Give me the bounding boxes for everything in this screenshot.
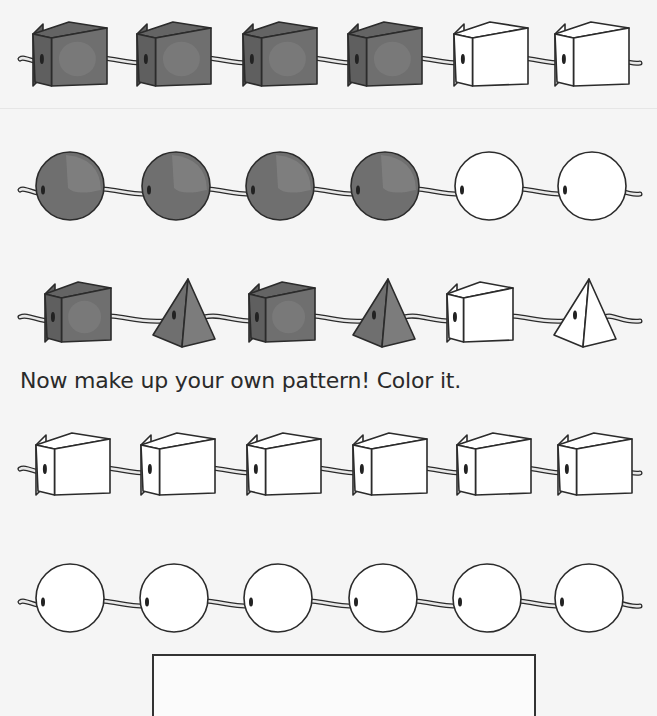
bead-cube-empty[interactable] — [454, 22, 528, 86]
bead-string-cubes-row — [0, 0, 657, 110]
bead-cube-filled — [33, 22, 107, 86]
bead-sphere-empty[interactable] — [555, 564, 623, 632]
bead-string-cube-pyramid-row — [0, 270, 657, 370]
bead-row-1 — [0, 0, 657, 110]
bead-cube-filled — [45, 282, 111, 342]
bead-pyramid-filled — [153, 279, 215, 347]
bead-sphere-filled — [246, 152, 314, 220]
bead-row-3 — [0, 270, 657, 370]
bead-cube-filled — [348, 22, 422, 86]
bead-sphere-empty[interactable] — [349, 564, 417, 632]
bead-cube-empty[interactable] — [447, 282, 513, 342]
bead-cube-empty[interactable] — [558, 433, 632, 495]
bead-string-spheres-row — [0, 120, 657, 250]
bead-cube-empty[interactable] — [141, 433, 215, 495]
bead-sphere-filled — [142, 152, 210, 220]
drawing-box[interactable] — [152, 654, 536, 716]
blank-spheres-row[interactable] — [0, 550, 657, 640]
bead-sphere-empty[interactable] — [558, 152, 626, 220]
bead-row-5[interactable] — [0, 550, 657, 640]
bead-cube-filled — [249, 282, 315, 342]
bead-sphere-empty[interactable] — [453, 564, 521, 632]
bead-sphere-empty[interactable] — [140, 564, 208, 632]
bead-cube-empty[interactable] — [247, 433, 321, 495]
bead-cube-empty[interactable] — [555, 22, 629, 86]
bead-sphere-empty[interactable] — [244, 564, 312, 632]
instruction-text: Now make up your own pattern! Color it. — [20, 368, 461, 393]
bead-cube-filled — [137, 22, 211, 86]
bead-row-2 — [0, 120, 657, 250]
bead-pyramid-filled — [353, 279, 415, 347]
bead-pyramid-empty[interactable] — [554, 279, 616, 347]
bead-row-4[interactable] — [0, 420, 657, 510]
bead-cube-filled — [243, 22, 317, 86]
bead-sphere-filled — [36, 152, 104, 220]
blank-cubes-row[interactable] — [0, 420, 657, 510]
bead-sphere-empty[interactable] — [36, 564, 104, 632]
bead-sphere-empty[interactable] — [455, 152, 523, 220]
bead-cube-empty[interactable] — [36, 433, 110, 495]
bead-cube-empty[interactable] — [457, 433, 531, 495]
bead-sphere-filled — [351, 152, 419, 220]
bead-cube-empty[interactable] — [353, 433, 427, 495]
